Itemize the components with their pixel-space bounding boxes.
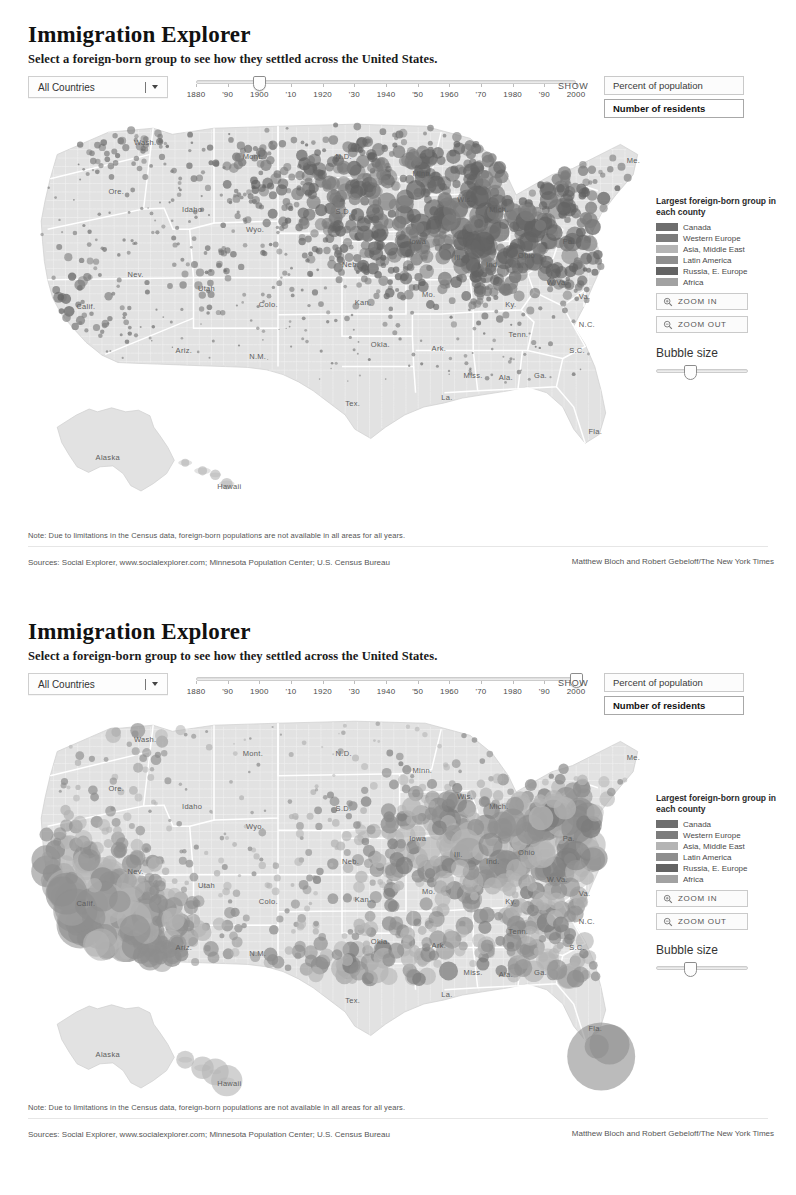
county-bubble[interactable]	[181, 459, 189, 467]
county-bubble[interactable]	[521, 312, 525, 316]
county-bubble[interactable]	[259, 204, 264, 209]
county-bubble[interactable]	[252, 196, 260, 204]
county-bubble[interactable]	[335, 362, 338, 365]
county-bubble[interactable]	[332, 244, 338, 250]
county-bubble[interactable]	[324, 286, 327, 289]
county-bubble[interactable]	[112, 133, 117, 138]
county-bubble[interactable]	[572, 319, 576, 323]
county-bubble[interactable]	[236, 304, 238, 306]
legend-item[interactable]: Western Europe	[656, 830, 788, 840]
county-bubble[interactable]	[318, 301, 324, 307]
county-bubble[interactable]	[513, 358, 515, 360]
county-bubble[interactable]	[122, 357, 124, 359]
county-bubble[interactable]	[291, 294, 295, 298]
county-bubble[interactable]	[481, 939, 494, 952]
county-bubble[interactable]	[586, 268, 591, 273]
county-bubble[interactable]	[332, 774, 335, 777]
county-bubble[interactable]	[406, 180, 426, 200]
county-bubble[interactable]	[294, 858, 303, 867]
county-bubble[interactable]	[338, 269, 345, 276]
county-bubble[interactable]	[264, 810, 266, 812]
county-bubble[interactable]	[291, 929, 296, 934]
county-bubble[interactable]	[349, 336, 352, 339]
county-bubble[interactable]	[307, 813, 314, 820]
county-bubble[interactable]	[420, 340, 422, 342]
county-bubble[interactable]	[363, 845, 375, 857]
county-bubble[interactable]	[167, 283, 173, 289]
county-bubble[interactable]	[285, 908, 290, 913]
county-bubble[interactable]	[191, 734, 196, 739]
county-bubble[interactable]	[273, 862, 276, 865]
county-bubble[interactable]	[109, 350, 111, 352]
county-bubble[interactable]	[376, 289, 380, 293]
county-bubble[interactable]	[580, 369, 582, 371]
county-bubble[interactable]	[221, 478, 233, 490]
county-bubble[interactable]	[389, 780, 399, 790]
county-bubble[interactable]	[206, 311, 210, 315]
county-bubble[interactable]	[151, 755, 162, 766]
county-bubble[interactable]	[400, 175, 407, 182]
us-map[interactable]: Wash.Ore.IdahoMont.Wyo.Nev.UtahCalif.Col…	[22, 108, 662, 512]
county-bubble[interactable]	[134, 156, 139, 161]
county-bubble[interactable]	[304, 329, 307, 332]
county-bubble[interactable]	[338, 748, 344, 754]
county-bubble[interactable]	[130, 188, 135, 193]
county-bubble[interactable]	[68, 272, 76, 280]
county-bubble[interactable]	[398, 761, 403, 766]
county-bubble[interactable]	[440, 279, 450, 289]
county-bubble[interactable]	[194, 924, 211, 941]
county-bubble[interactable]	[292, 945, 306, 959]
county-bubble[interactable]	[504, 381, 507, 384]
county-bubble[interactable]	[199, 306, 204, 311]
county-bubble[interactable]	[205, 245, 211, 251]
county-bubble[interactable]	[241, 923, 246, 928]
county-bubble[interactable]	[177, 193, 182, 198]
county-bubble[interactable]	[193, 210, 198, 215]
county-bubble[interactable]	[514, 290, 525, 301]
county-bubble[interactable]	[432, 820, 447, 835]
county-bubble[interactable]	[322, 148, 326, 152]
county-bubble[interactable]	[79, 179, 81, 181]
county-bubble[interactable]	[532, 242, 544, 254]
county-bubble[interactable]	[468, 308, 471, 311]
county-bubble[interactable]	[618, 163, 626, 171]
county-bubble[interactable]	[577, 775, 588, 786]
legend-item[interactable]: Canada	[656, 222, 788, 232]
county-bubble[interactable]	[211, 812, 213, 814]
county-bubble[interactable]	[294, 202, 300, 208]
county-bubble[interactable]	[196, 268, 204, 276]
county-bubble[interactable]	[276, 249, 282, 255]
county-bubble[interactable]	[104, 292, 112, 300]
county-bubble[interactable]	[155, 729, 168, 742]
county-bubble[interactable]	[107, 316, 112, 321]
county-bubble[interactable]	[209, 160, 214, 165]
county-bubble[interactable]	[483, 303, 488, 308]
county-bubble[interactable]	[127, 306, 131, 310]
county-bubble[interactable]	[341, 731, 346, 736]
county-bubble[interactable]	[202, 148, 206, 152]
county-bubble[interactable]	[386, 750, 393, 757]
county-bubble[interactable]	[287, 273, 290, 276]
county-bubble[interactable]	[40, 828, 54, 842]
county-bubble[interactable]	[169, 201, 171, 203]
county-bubble[interactable]	[258, 150, 265, 157]
county-bubble[interactable]	[373, 293, 379, 299]
zoom-out-button[interactable]: ZOOM OUT	[656, 316, 748, 333]
county-bubble[interactable]	[228, 899, 232, 903]
county-bubble[interactable]	[439, 193, 452, 206]
county-bubble[interactable]	[577, 276, 587, 286]
county-bubble[interactable]	[180, 258, 184, 262]
county-bubble[interactable]	[329, 863, 333, 867]
county-bubble[interactable]	[48, 187, 50, 189]
county-bubble[interactable]	[454, 141, 461, 148]
county-bubble[interactable]	[222, 864, 228, 870]
county-bubble[interactable]	[74, 279, 85, 290]
county-bubble[interactable]	[551, 269, 561, 279]
county-bubble[interactable]	[539, 347, 541, 349]
county-bubble[interactable]	[149, 337, 152, 340]
county-bubble[interactable]	[262, 300, 265, 303]
county-bubble[interactable]	[280, 276, 282, 278]
county-bubble[interactable]	[321, 746, 323, 748]
county-bubble[interactable]	[344, 849, 351, 856]
county-bubble[interactable]	[243, 217, 247, 221]
